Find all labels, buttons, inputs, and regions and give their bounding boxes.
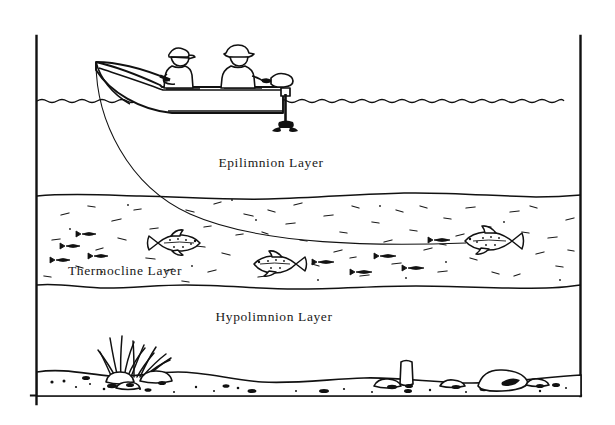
- lake-cross-section-illustration: Epilimnion Layer Thermocline Layer Hypol…: [0, 0, 615, 425]
- lake-stratification-diagram: Epilimnion Layer Thermocline Layer Hypol…: [0, 0, 615, 425]
- gamefish-right-eye: [469, 238, 471, 240]
- thermocline-layer-label: Thermocline Layer: [68, 263, 182, 278]
- gamefish-left-eye: [194, 240, 196, 242]
- angler-rear-torso: [221, 66, 255, 88]
- hypolimnion-layer-label: Hypolimnion Layer: [215, 309, 332, 324]
- outboard-cowling: [271, 74, 293, 88]
- submerged-stump: [400, 361, 413, 386]
- outboard-lower-unit: [278, 121, 294, 129]
- angler-front-torso: [164, 66, 193, 88]
- gamefish-center-eye: [258, 261, 260, 263]
- epilimnion-layer-label: Epilimnion Layer: [218, 155, 323, 170]
- canvas-background: [0, 0, 615, 425]
